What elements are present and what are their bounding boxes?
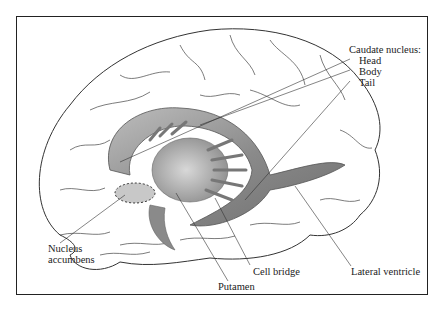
label-caudate-nucleus: Caudate nucleus: <box>349 44 421 55</box>
label-tail: Tail <box>359 77 375 88</box>
label-head: Head <box>359 55 381 66</box>
label-lateral-ventricle: Lateral ventricle <box>351 266 420 277</box>
label-cell-bridge: Cell bridge <box>253 266 300 277</box>
label-nucleus-accumbens-1: Nucleus <box>48 243 82 254</box>
label-body: Body <box>359 66 382 77</box>
label-putamen: Putamen <box>218 281 255 292</box>
nucleus-accumbens <box>115 183 155 203</box>
label-nucleus-accumbens-2: accumbens <box>48 254 95 265</box>
